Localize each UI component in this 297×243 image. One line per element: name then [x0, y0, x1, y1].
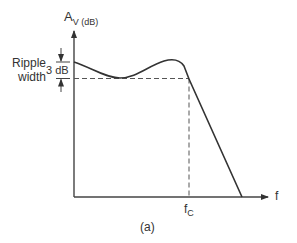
y-axis-label: AV (dB) [64, 10, 98, 23]
y-axis-label-main: A [64, 9, 73, 24]
ripple-label-line2: width [18, 71, 46, 83]
cutoff-label-sub: C [187, 208, 194, 218]
y-axis-label-sub: V (dB) [73, 17, 99, 27]
cutoff-label: fC [184, 203, 194, 215]
x-axis-label: f [275, 190, 278, 202]
ripple-label-line1: Ripple [12, 57, 46, 69]
filter-response-diagram [0, 0, 297, 243]
figure-caption: (a) [140, 221, 155, 233]
response-curve [74, 60, 242, 197]
ripple-value: 3 dB [46, 65, 69, 76]
